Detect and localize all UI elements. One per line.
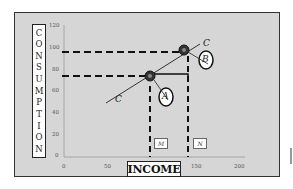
marker-m-box: M <box>154 138 168 149</box>
curve-label-bottom: C <box>115 94 122 104</box>
edge-bracket <box>290 148 292 164</box>
x-axis-label-box: INCOME <box>127 161 181 177</box>
point-b-label: B <box>202 54 209 64</box>
point-a-label: A <box>162 91 169 101</box>
marker-n-box: N <box>193 138 207 149</box>
curve-label-top: C <box>203 38 210 48</box>
